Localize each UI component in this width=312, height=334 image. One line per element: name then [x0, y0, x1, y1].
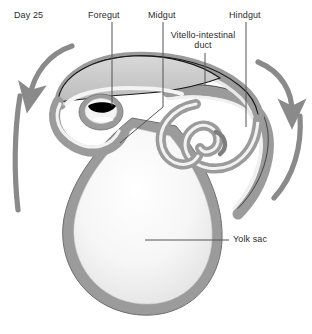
label-day: Day 25 — [14, 10, 43, 20]
label-vitello-line2: duct — [194, 40, 211, 50]
label-hindgut: Hindgut — [229, 10, 261, 20]
label-vitello-line1: Vitello-intestinal — [171, 30, 236, 40]
diagram-canvas — [0, 0, 312, 334]
label-yolk-sac: Yolk sac — [233, 234, 267, 244]
left-rotation-arrow — [15, 46, 72, 210]
label-midgut: Midgut — [148, 10, 176, 20]
embryo-gut-diagram: Day 25 Foregut Midgut Hindgut Vitello-in… — [0, 0, 312, 334]
label-vitello-intestinal-duct: Vitello-intestinal duct — [165, 30, 241, 50]
label-foregut: Foregut — [88, 10, 120, 20]
